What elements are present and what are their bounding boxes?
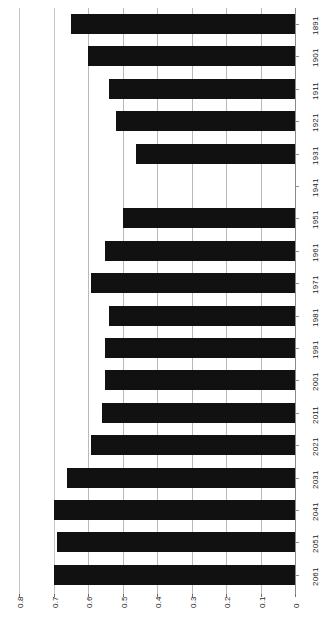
value-label-0.5: 0.5 — [120, 596, 129, 608]
bar-1911 — [109, 79, 295, 99]
category-label-1901: 1901 — [311, 49, 320, 68]
category-label-1931: 1931 — [311, 146, 320, 165]
category-tick-2041 — [296, 510, 299, 511]
value-tick-0.8 — [19, 594, 20, 597]
value-tick-0.3 — [192, 594, 193, 597]
category-label-1981: 1981 — [311, 308, 320, 327]
value-label-0.3: 0.3 — [189, 596, 198, 608]
category-tick-2031 — [296, 478, 299, 479]
category-label-2021: 2021 — [311, 438, 320, 457]
value-label-0: 0 — [292, 603, 301, 608]
category-label-2031: 2031 — [311, 470, 320, 489]
bar-2051 — [57, 532, 295, 552]
value-tick-0.2 — [226, 594, 227, 597]
bar-1971 — [91, 273, 295, 293]
value-label-0.2: 0.2 — [223, 596, 232, 608]
category-label-1971: 1971 — [311, 276, 320, 295]
category-tick-1951 — [296, 218, 299, 219]
category-tick-2051 — [296, 542, 299, 543]
value-tick-0.6 — [88, 594, 89, 597]
bar-1921 — [116, 111, 295, 131]
bar-chart: 1891190119111921193119411951196119711981… — [0, 0, 335, 632]
bar-1931 — [136, 144, 295, 164]
category-tick-1961 — [296, 251, 299, 252]
category-tick-2001 — [296, 380, 299, 381]
value-tick-0.1 — [261, 594, 262, 597]
category-label-1891: 1891 — [311, 16, 320, 35]
value-tick-0.4 — [157, 594, 158, 597]
category-tick-2061 — [296, 575, 299, 576]
category-tick-1891 — [296, 24, 299, 25]
category-label-1921: 1921 — [311, 114, 320, 133]
category-tick-1941 — [296, 186, 299, 187]
value-tick-0.5 — [123, 594, 124, 597]
bar-2011 — [102, 403, 295, 423]
category-label-1911: 1911 — [311, 82, 320, 100]
bar-1891 — [71, 14, 295, 34]
bar-1951 — [123, 208, 296, 228]
category-tick-1901 — [296, 56, 299, 57]
category-label-1951: 1951 — [311, 211, 320, 230]
category-tick-2011 — [296, 413, 299, 414]
category-tick-1971 — [296, 283, 299, 284]
bar-1981 — [109, 306, 295, 326]
category-label-1961: 1961 — [311, 243, 320, 262]
bar-1991 — [105, 338, 295, 358]
bar-2031 — [67, 468, 295, 488]
category-tick-1991 — [296, 348, 299, 349]
value-tick-0 — [295, 594, 296, 597]
value-label-0.7: 0.7 — [51, 596, 60, 608]
bar-1901 — [88, 46, 295, 66]
category-label-2001: 2001 — [311, 373, 320, 392]
category-label-1991: 1991 — [311, 340, 320, 359]
category-tick-1931 — [296, 154, 299, 155]
value-label-0.6: 0.6 — [85, 596, 94, 608]
category-label-2041: 2041 — [311, 502, 320, 521]
plot-area — [0, 0, 335, 600]
gridline-0.8 — [19, 8, 20, 594]
value-label-0.4: 0.4 — [154, 596, 163, 608]
bar-2021 — [91, 435, 295, 455]
value-tick-0.7 — [54, 594, 55, 597]
bar-1961 — [105, 241, 295, 261]
bar-2061 — [54, 565, 296, 585]
category-label-1941: 1941 — [311, 178, 320, 197]
category-tick-1911 — [296, 89, 299, 90]
bar-2041 — [54, 500, 296, 520]
category-label-2051: 2051 — [311, 535, 320, 554]
value-axis-zero-line — [295, 8, 296, 594]
value-label-0.8: 0.8 — [16, 596, 25, 608]
value-label-0.1: 0.1 — [258, 596, 267, 608]
bar-2001 — [105, 370, 295, 390]
category-tick-1981 — [296, 316, 299, 317]
category-label-2011: 2011 — [311, 406, 320, 424]
category-label-2061: 2061 — [311, 567, 320, 586]
category-tick-2021 — [296, 445, 299, 446]
category-tick-1921 — [296, 121, 299, 122]
